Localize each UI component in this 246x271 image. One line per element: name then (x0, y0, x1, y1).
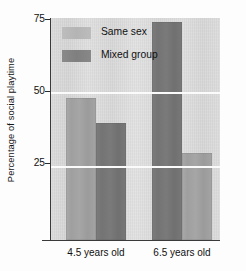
legend-swatch-mixed-group (62, 50, 91, 62)
y-tick-label-25: 25 (25, 158, 45, 168)
legend-item-same-sex: Same sex (62, 24, 158, 41)
x-tick-label-4-5-years: 4.5 years old (66, 248, 126, 258)
x-axis-line (42, 240, 220, 241)
bar-chart-figure: Percentage of social playtime 75 50 25 S… (0, 0, 246, 271)
x-tick-label-6-5-years: 6.5 years old (152, 248, 212, 258)
legend-swatch-same-sex (62, 27, 91, 39)
legend-label-mixed-group: Mixed group (101, 50, 158, 60)
legend: Same sex Mixed group (62, 24, 158, 70)
bar-same-sex-4-5-years (66, 98, 96, 240)
y-axis-title: Percentage of social playtime (0, 0, 22, 240)
gridline-50 (51, 92, 220, 94)
legend-label-same-sex: Same sex (101, 27, 147, 37)
y-tick-label-50: 50 (25, 86, 45, 96)
y-tick-label-75: 75 (25, 14, 45, 24)
legend-item-mixed-group: Mixed group (62, 47, 158, 64)
gridline-25 (51, 166, 220, 168)
y-axis-title-text: Percentage of social playtime (6, 58, 16, 182)
bar-mixed-group-4-5-years (96, 123, 126, 240)
y-axis-tick-labels: 75 50 25 (24, 0, 45, 271)
plot-area: Same sex Mixed group (51, 18, 220, 240)
